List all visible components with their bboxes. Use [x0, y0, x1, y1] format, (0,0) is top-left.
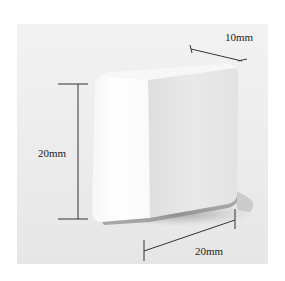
height-label: 20mm: [38, 147, 66, 159]
depth-dimension-line: [190, 45, 247, 61]
block-side-face: [148, 68, 238, 218]
width-label: 20mm: [195, 245, 223, 257]
depth-label: 10mm: [225, 31, 253, 43]
block-front-face: [92, 77, 150, 222]
